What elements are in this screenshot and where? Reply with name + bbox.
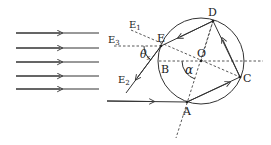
point-e <box>160 45 163 48</box>
point-o <box>200 60 202 62</box>
label-o: O <box>197 47 206 60</box>
label-d: D <box>208 6 217 19</box>
label-a: A <box>182 105 192 118</box>
incident-rays <box>16 33 99 89</box>
label-e2: E2 <box>118 74 130 87</box>
arrow-icon <box>223 40 240 77</box>
arrow-icon <box>107 101 152 102</box>
label-e: E <box>157 32 165 45</box>
ray-path <box>107 21 240 102</box>
point-d <box>212 20 215 23</box>
label-e1: E1 <box>129 19 141 32</box>
arrow-icon <box>180 21 213 37</box>
label-c: C <box>243 72 251 85</box>
label-e3: E3 <box>108 34 120 47</box>
point-a <box>186 101 189 104</box>
label-b: B <box>161 63 169 76</box>
droplet-ray-diagram: D E E1 E3 E2 θs O B α C A <box>0 0 271 145</box>
label-theta-s: θs <box>140 48 151 62</box>
point-c <box>239 76 242 79</box>
label-alpha: α <box>185 63 193 77</box>
